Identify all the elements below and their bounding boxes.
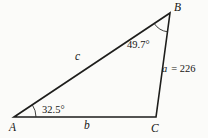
triangle-diagram: B A C 49.7° 32.5° c b a= 226 xyxy=(0,0,208,138)
angle-B-label: 49.7° xyxy=(127,39,150,50)
side-c-label: c xyxy=(75,50,80,62)
angle-A-label: 32.5° xyxy=(42,104,65,115)
vertex-B-label: B xyxy=(174,1,181,13)
triangle-figure: B A C 49.7° 32.5° c b a= 226 xyxy=(0,0,208,138)
side-a-value: = 226 xyxy=(171,63,195,74)
side-a-symbol: a xyxy=(162,63,167,74)
triangle-outline xyxy=(14,13,170,117)
vertex-C-label: C xyxy=(151,122,159,134)
side-a-annotation: a= 226 xyxy=(162,63,196,74)
angle-B-arc xyxy=(154,24,167,32)
vertex-A-label: A xyxy=(8,121,17,133)
angle-A-arc xyxy=(32,105,36,117)
side-b-label: b xyxy=(84,119,90,131)
